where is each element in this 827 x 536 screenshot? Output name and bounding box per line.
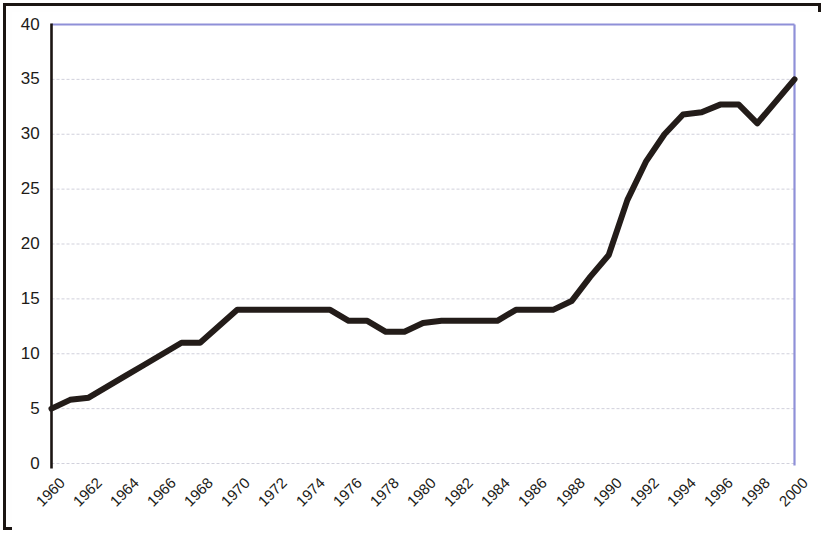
- chart-figure: 0510152025303540 19601962196419661968197…: [0, 0, 827, 536]
- gridlines-group: [52, 79, 795, 463]
- line-chart-canvas: [0, 0, 827, 536]
- plot-area-border: [52, 25, 795, 466]
